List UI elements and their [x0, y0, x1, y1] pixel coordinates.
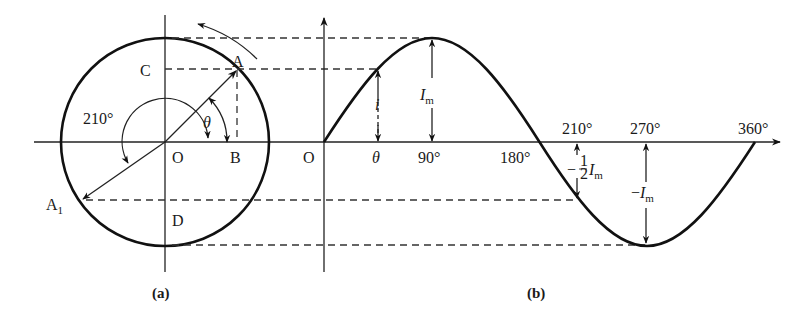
half-Im: Im: [588, 161, 603, 181]
rotation-direction-arrow: [198, 24, 257, 59]
caption-b: (b): [527, 285, 545, 302]
label-D: D: [172, 212, 184, 229]
label-O-b: O: [303, 149, 315, 166]
label-Im: Im: [419, 86, 434, 106]
label-A1: A1: [46, 196, 63, 216]
label-theta-a: θ: [203, 114, 211, 131]
label-C: C: [140, 62, 151, 79]
label-i: i: [375, 96, 379, 113]
caption-a: (a): [152, 285, 170, 302]
phasor-OA1-arrow: [83, 142, 165, 199]
label-O-a: O: [172, 149, 184, 166]
panel-b-sine-wave: i Im − 1 2 Im −Im O θ 90° 180° 210° 270°…: [303, 18, 780, 302]
sine-phasor-diagram: A C O B D A1 θ 210° (a) i Im − 1: [0, 0, 812, 317]
tick-210: 210°: [562, 120, 592, 137]
neg-sign: −: [567, 161, 576, 178]
phasor-OA-arrow: [165, 71, 236, 142]
label-A: A: [232, 53, 244, 70]
label-neg-Im: −Im: [631, 184, 654, 204]
half-denominator: 2: [580, 165, 588, 182]
tick-360: 360°: [738, 120, 768, 137]
tick-90: 90°: [418, 149, 440, 166]
tick-270: 270°: [630, 120, 660, 137]
theta-arc-icon: [209, 98, 227, 142]
label-neg-half-Im: − 1 2 Im: [567, 152, 603, 182]
tick-theta: θ: [372, 149, 380, 166]
panel-a-phasor: A C O B D A1 θ 210° (a): [34, 15, 305, 302]
tick-180: 180°: [500, 149, 530, 166]
label-210-deg: 210°: [83, 110, 113, 127]
label-B: B: [230, 149, 241, 166]
